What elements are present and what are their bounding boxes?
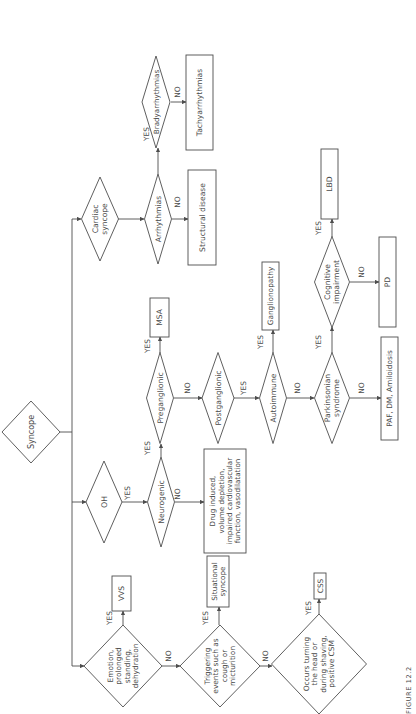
node-label-line: Ganglionopathy xyxy=(266,266,275,325)
edge-label-no: NO xyxy=(357,382,366,394)
node-label-line: LBD xyxy=(325,176,334,191)
node-label-line: dehydration xyxy=(131,643,140,688)
node-label: Neurogenic xyxy=(157,480,166,523)
node-label-line: syndrome xyxy=(332,379,341,417)
edge-label-yes: YES xyxy=(256,335,265,350)
node-ganglionopathy: Ganglionopathy xyxy=(262,262,279,330)
node-label: Bradyarrhythmias xyxy=(152,69,161,134)
node-label: Ganglionopathy xyxy=(266,266,275,325)
node-emotion: Emotion,prolongedstanding,dehydration xyxy=(84,625,162,707)
edge-label-yes: YES xyxy=(314,335,323,350)
node-label: Parkinsoniansyndrome xyxy=(323,374,341,423)
edge-label-yes: YES xyxy=(143,441,152,456)
node-label: Cognitiveimpairment xyxy=(323,260,341,304)
node-label-line: impairment xyxy=(332,260,341,304)
node-label: Preganglionic xyxy=(156,372,165,423)
node-preganglionic: Preganglionic xyxy=(147,353,174,444)
node-label: PD xyxy=(383,277,392,288)
node-tachyarrhythmias: Tachyarrhythmias xyxy=(186,55,213,150)
syncope-flowchart: SyncopeCardiacsyncopeArrhythmiasBradyarr… xyxy=(0,0,416,714)
node-syncope: Syncope xyxy=(2,401,60,463)
node-label-line: CSS xyxy=(316,578,325,593)
node-label: Situationalsyncope xyxy=(209,562,226,601)
node-vvs: VVS xyxy=(112,576,131,611)
node-label-line: Autoimmune xyxy=(269,373,278,422)
node-label-line: VVS xyxy=(117,586,126,601)
node-label-line: Arrhythmias xyxy=(154,196,163,242)
node-label-line: Postganglionic xyxy=(214,371,223,426)
edge-label-yes: YES xyxy=(201,611,210,626)
edge-label-no: NO xyxy=(173,488,182,500)
node-label: Emotion,prolongedstanding,dehydration xyxy=(106,643,140,688)
node-label: Occurs turningthe head orduring shaving,… xyxy=(302,635,336,692)
edge-label-yes: YES xyxy=(239,381,248,396)
edge-label-no: NO xyxy=(357,266,366,278)
node-neurogenic: Neurogenic xyxy=(148,457,175,547)
node-msa: MSA xyxy=(150,298,169,337)
node-label: Cardiacsyncope xyxy=(91,203,109,235)
edge-label-yes: YES xyxy=(314,221,323,236)
node-occurs: Occurs turningthe head orduring shaving,… xyxy=(272,614,367,714)
node-label: Syncope xyxy=(27,415,36,449)
node-postganglionic: Postganglionic xyxy=(202,353,234,444)
figure-caption: FIGURE 12.2 xyxy=(405,666,413,714)
node-label-line: micturition xyxy=(228,646,237,686)
node-paf: PAF, DM, Amiloidosis xyxy=(381,337,398,440)
node-label-line: syncope xyxy=(100,203,109,235)
node-drug: Drug induced,volume depletion,impaired c… xyxy=(204,449,246,553)
node-label-line: MSA xyxy=(155,308,164,326)
node-label: Structural disease xyxy=(198,183,207,252)
node-label-line: positive CSM xyxy=(327,640,336,688)
node-label-line: Syncope xyxy=(27,415,36,449)
edge-label-yes: YES xyxy=(143,339,152,354)
node-label: Autoimmune xyxy=(269,373,278,422)
node-label: Postganglionic xyxy=(214,371,223,426)
edge-label-yes: YES xyxy=(123,486,132,501)
node-oh: OH xyxy=(86,461,122,543)
node-label: Arrhythmias xyxy=(154,196,163,242)
node-label-line: Preganglionic xyxy=(156,372,165,423)
node-triggering: Triggeringevents such ascough ormicturit… xyxy=(180,625,260,707)
node-label-line: OH xyxy=(100,496,109,508)
node-label-line: Bradyarrhythmias xyxy=(152,69,161,134)
edge-label-yes: YES xyxy=(105,611,114,626)
node-label: Tachyarrhythmias xyxy=(195,69,204,137)
edge-label-no: NO xyxy=(261,650,270,662)
node-label: OH xyxy=(100,496,109,508)
node-structural: Structural disease xyxy=(188,170,216,265)
node-label: CSS xyxy=(316,578,325,593)
node-autoimmune: Autoimmune xyxy=(260,353,287,444)
node-arrhythmias: Arrhythmias xyxy=(145,174,172,264)
node-label-line: Structural disease xyxy=(198,183,207,252)
node-pd: PD xyxy=(379,237,396,327)
node-label: VVS xyxy=(117,586,126,601)
node-cognitive: Cognitiveimpairment xyxy=(315,237,350,328)
node-label-line: PD xyxy=(383,277,392,288)
node-label-line: syncope xyxy=(218,566,227,596)
edge-label-no: NO xyxy=(173,196,182,208)
edge-label-no: NO xyxy=(173,86,182,98)
node-cardiac: Cardiacsyncope xyxy=(82,177,119,261)
node-label-line: PAF, DM, Amiloidosis xyxy=(385,350,394,427)
edge-label-yes: YES xyxy=(304,601,313,616)
node-css: CSS xyxy=(314,573,326,599)
node-label: MSA xyxy=(155,308,164,326)
node-label: LBD xyxy=(325,176,334,191)
edge-label-yes: YES xyxy=(142,127,151,142)
node-parkinsonian: Parkinsoniansyndrome xyxy=(315,353,350,444)
node-label-line: Neurogenic xyxy=(157,480,166,523)
node-label-line: function, vasodilatation xyxy=(233,459,242,544)
node-label: PAF, DM, Amiloidosis xyxy=(385,350,394,427)
node-lbd: LBD xyxy=(321,149,338,219)
edge-label-no: NO xyxy=(293,382,302,394)
flowchart-nodes: SyncopeCardiacsyncopeArrhythmiasBradyarr… xyxy=(2,55,398,714)
node-situational: Situationalsyncope xyxy=(207,556,229,607)
edge-label-no: NO xyxy=(183,382,192,394)
edge-label-no: NO xyxy=(164,650,173,662)
node-label-line: Tachyarrhythmias xyxy=(195,69,204,137)
